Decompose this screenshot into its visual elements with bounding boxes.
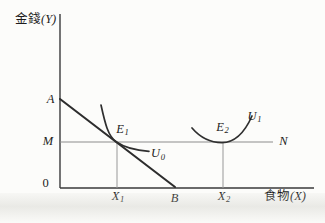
curve-u1-label: U1 <box>248 110 262 124</box>
y-axis-label: 金錢(Y) <box>15 13 56 26</box>
x1-tick-label: X1 <box>112 190 124 204</box>
x-axis-label-var: (X) <box>290 189 306 203</box>
point-a-label: A <box>47 93 55 106</box>
y-axis-label-cjk: 金錢 <box>15 12 41 26</box>
point-e1-label: E1 <box>116 123 128 137</box>
y-axis-label-var: (Y) <box>41 12 56 26</box>
x-axis-label: 食物(X) <box>264 190 306 203</box>
point-e2-label: E2 <box>216 121 228 135</box>
indifference-curve-diagram: 金錢(Y) 食物(X) A M N 0 E1 E2 U0 U1 X1 B X2 <box>0 0 325 223</box>
curve-u0-label: U0 <box>151 147 165 161</box>
x-axis-label-cjk: 食物 <box>264 189 290 203</box>
x2-tick-label: X2 <box>218 190 230 204</box>
point-n-label: N <box>279 135 287 148</box>
origin-label: 0 <box>42 177 48 190</box>
point-b-label: B <box>171 192 179 205</box>
point-m-label: M <box>43 135 53 148</box>
